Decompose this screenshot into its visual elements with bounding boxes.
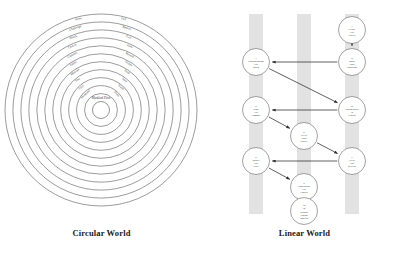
circular-ring-label-left: Block	[69, 34, 78, 41]
linear-node-label-line: Object	[349, 34, 356, 37]
circular-ring-label-left: Commit	[67, 51, 78, 59]
circular-ring-label-left: Choice	[67, 42, 77, 50]
circular-ring-label-right: Turn	[121, 76, 129, 83]
linear-node-label-line: Block	[253, 66, 260, 69]
circular-ring-label-right: Stolen	[124, 60, 133, 68]
linear-node[interactable]: 2MakeHoldChallenge	[339, 49, 366, 76]
circular-ring-label-left: Arise	[74, 16, 82, 22]
linear-node[interactable]: 4Losing BattleinClosed	[339, 97, 366, 124]
circular-ring-label-right: Reveal	[125, 51, 135, 59]
circular-core-group	[93, 102, 110, 119]
linear-node[interactable]: 3UnderstandingHisBlock	[243, 49, 270, 76]
circular-world-canvas: AriseFallChallengeReturnBlockExitChoiceP…	[0, 6, 203, 218]
linear-node-label-line: Commit	[252, 114, 261, 117]
linear-edge	[317, 143, 338, 154]
linear-node[interactable]: 9ConclusionHisClosed	[291, 174, 318, 201]
circular-core-circle	[93, 102, 110, 119]
circular-ring-label-right: Truth	[117, 83, 125, 91]
linear-node-label-line: Closed	[348, 114, 356, 117]
linear-node[interactable]: 7EveryHisReveals	[339, 148, 366, 175]
linear-edge	[269, 117, 290, 128]
circular-ring-label-right: Return	[122, 25, 132, 32]
circular-ring-label-left: Test	[74, 76, 81, 82]
circular-ring-label-left: Mankind	[80, 88, 91, 99]
circular-ring-label-right: Fall	[121, 16, 127, 21]
circular-ring-label-left: Mistake	[69, 67, 80, 76]
linear-edge	[269, 168, 290, 179]
linear-world-canvas: 1CreateHisObject2MakeHoldChallenge3Under…	[203, 6, 406, 218]
linear-node[interactable]: 6KeepHoldObject	[291, 123, 318, 150]
linear-node-label-line: Challenge	[347, 66, 358, 69]
linear-world-caption: Linear World	[203, 228, 406, 239]
linear-node-label-line: Inherits	[300, 217, 308, 220]
linear-node[interactable]: 1CreateHisObject	[339, 17, 366, 44]
linear-node[interactable]: 5StopHisCommit	[243, 97, 270, 124]
circular-ring-label-right: Exit	[126, 34, 132, 40]
circular-world-svg: AriseFallChallengeReturnBlockExitChoiceP…	[0, 6, 203, 218]
circular-label-group: AriseFallChallengeReturnBlockExitChoiceP…	[67, 16, 135, 100]
circular-ring-label-left: Trial	[77, 84, 84, 91]
panel-linear-world: 1CreateHisObject2MakeHoldChallenge3Under…	[203, 0, 406, 262]
circular-ring-label-right: Trial	[124, 68, 131, 75]
linear-node-label-line: Closed	[300, 191, 308, 194]
panel-circular-world: AriseFallChallengeReturnBlockExitChoiceP…	[0, 0, 203, 262]
circular-ring-label-right: Plots	[113, 90, 121, 98]
linear-node[interactable]: 8SphereHisDeal	[243, 148, 270, 175]
circular-ring-label-left: Taken	[69, 60, 78, 68]
linear-node-label-line: Deal	[254, 165, 259, 168]
circular-ring-label-left: Challenge	[69, 24, 83, 32]
circular-ring-label-right: Path	[126, 43, 133, 49]
circular-core-label: Mankind Plots	[92, 96, 111, 100]
linear-node[interactable]: 10ToRegainLosingInherits	[291, 198, 318, 225]
linear-node-label-line: Object	[301, 140, 308, 143]
circular-world-caption: Circular World	[0, 228, 203, 239]
linear-world-svg: 1CreateHisObject2MakeHoldChallenge3Under…	[203, 6, 406, 218]
linear-node-label-line: Reveals	[348, 165, 356, 168]
figure-root: AriseFallChallengeReturnBlockExitChoiceP…	[0, 0, 406, 262]
